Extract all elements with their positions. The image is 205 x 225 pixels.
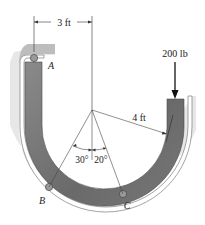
point-a-label: A: [47, 60, 55, 71]
dimension-3ft: [34, 16, 92, 110]
point-c-label: C: [124, 200, 131, 211]
radius-label: 4 ft: [132, 112, 146, 123]
curved-bar-diagram: 3 ft 4 ft 30° 20° 200 lb: [0, 0, 205, 225]
angle-30-label: 30°: [75, 155, 89, 165]
radius-line: [92, 110, 167, 135]
load-arrow-icon: [172, 62, 179, 99]
dimension-3ft-label: 3 ft: [57, 17, 71, 28]
load-label: 200 lb: [162, 48, 187, 59]
roller-a-icon: [30, 54, 37, 61]
point-b-label: B: [39, 195, 45, 206]
angle-20-label: 20°: [94, 155, 108, 165]
